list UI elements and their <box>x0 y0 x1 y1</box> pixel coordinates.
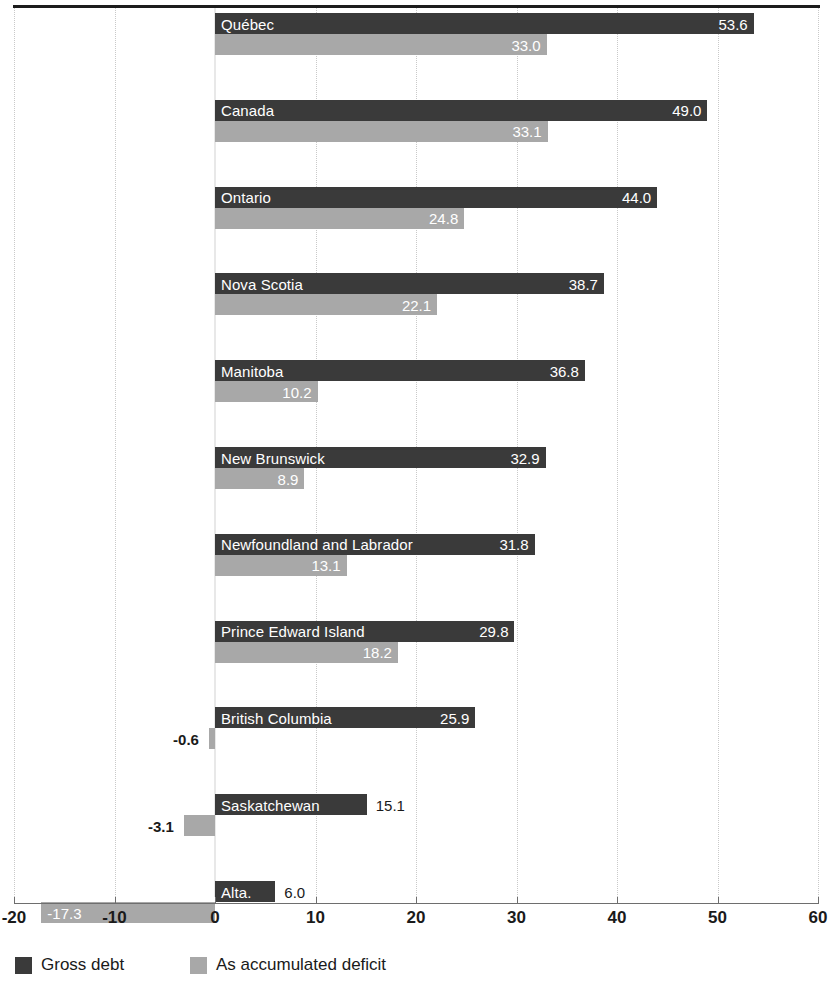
bar-value-gross-debt: 53.6 <box>718 15 747 32</box>
bar-category-label: Saskatchewan <box>221 796 320 813</box>
legend-swatch-accumulated-deficit <box>190 957 207 974</box>
bar-value-accumulated-deficit: 10.2 <box>282 383 311 400</box>
bar-value-gross-debt: 29.8 <box>479 623 508 640</box>
bar-accumulated-deficit[interactable]: -17.3 <box>41 902 215 923</box>
bar-gross-debt[interactable]: British Columbia25.9 <box>215 707 475 728</box>
bar-category-label: Québec <box>221 15 274 32</box>
bar-category-label: Ontario <box>221 189 271 206</box>
bar-category-label: New Brunswick <box>221 449 325 466</box>
bar-value-gross-debt: 32.9 <box>510 449 539 466</box>
bar-value-gross-debt: 49.0 <box>672 102 701 119</box>
bar-group: Canada49.033.1 <box>0 100 831 142</box>
legend-label-accumulated-deficit: As accumulated deficit <box>216 955 386 975</box>
tick-label-10: 10 <box>306 908 325 928</box>
legend-item-gross-debt: Gross debt <box>15 955 190 975</box>
bar-group: Nova Scotia38.722.1 <box>0 273 831 315</box>
bar-gross-debt[interactable]: Newfoundland and Labrador31.8 <box>215 534 535 555</box>
tick-label--10: -10 <box>102 908 127 928</box>
tick-mark-20 <box>416 897 417 904</box>
bar-value-gross-debt: 25.9 <box>440 709 469 726</box>
tick-label-40: 40 <box>608 908 627 928</box>
bar-accumulated-deficit[interactable] <box>184 815 215 836</box>
bar-value-accumulated-deficit: -0.6 <box>147 730 199 747</box>
bar-value-gross-debt: 31.8 <box>499 536 528 553</box>
bar-value-accumulated-deficit: 13.1 <box>311 557 340 574</box>
bar-group: Prince Edward Island29.818.2 <box>0 621 831 663</box>
bar-value-accumulated-deficit: -3.1 <box>122 817 174 834</box>
chart-root: Québec53.633.0Canada49.033.1Ontario44.02… <box>0 0 831 991</box>
bar-value-gross-debt: 6.0 <box>284 883 305 900</box>
bar-category-label: Newfoundland and Labrador <box>221 536 413 553</box>
bar-category-label: British Columbia <box>221 709 332 726</box>
bar-category-label: Alta. <box>221 883 252 900</box>
bar-value-gross-debt: 38.7 <box>569 275 598 292</box>
tick-label--20: -20 <box>2 908 27 928</box>
tick-mark-40 <box>617 897 618 904</box>
legend-item-accumulated-deficit: As accumulated deficit <box>190 955 386 975</box>
tick-mark-30 <box>517 897 518 904</box>
bar-value-accumulated-deficit: 24.8 <box>429 210 458 227</box>
bar-group: British Columbia25.9-0.6 <box>0 707 831 749</box>
legend-label-gross-debt: Gross debt <box>41 955 124 975</box>
bar-value-accumulated-deficit: 33.0 <box>511 36 540 53</box>
bar-accumulated-deficit[interactable]: 22.1 <box>215 294 437 315</box>
tick-mark--20 <box>14 897 15 904</box>
bar-accumulated-deficit[interactable] <box>209 728 215 749</box>
bar-group: Ontario44.024.8 <box>0 187 831 229</box>
tick-mark-50 <box>718 897 719 904</box>
plot-area: Québec53.633.0Canada49.033.1Ontario44.02… <box>0 8 831 897</box>
bar-accumulated-deficit[interactable]: 13.1 <box>215 555 347 576</box>
bar-gross-debt[interactable]: Saskatchewan <box>215 794 367 815</box>
bar-accumulated-deficit[interactable]: 8.9 <box>215 468 304 489</box>
tick-label-0: 0 <box>210 908 219 928</box>
bar-category-label: Nova Scotia <box>221 275 303 292</box>
bar-group: Saskatchewan15.1-3.1 <box>0 794 831 836</box>
tick-label-20: 20 <box>407 908 426 928</box>
bar-value-accumulated-deficit: 22.1 <box>402 296 431 313</box>
bar-group: Québec53.633.0 <box>0 13 831 55</box>
bar-category-label: Manitoba <box>221 362 284 379</box>
bar-gross-debt[interactable]: New Brunswick32.9 <box>215 447 546 468</box>
bar-gross-debt[interactable]: Canada49.0 <box>215 100 707 121</box>
bar-accumulated-deficit[interactable]: 33.0 <box>215 34 547 55</box>
tick-mark-0 <box>215 897 216 904</box>
bar-value-gross-debt: 15.1 <box>376 796 405 813</box>
tick-label-50: 50 <box>708 908 727 928</box>
tick-mark-10 <box>316 897 317 904</box>
bar-accumulated-deficit[interactable]: 33.1 <box>215 121 548 142</box>
tick-label-30: 30 <box>507 908 526 928</box>
bar-gross-debt[interactable]: Ontario44.0 <box>215 187 657 208</box>
bar-value-gross-debt: 36.8 <box>550 362 579 379</box>
bar-value-accumulated-deficit: 33.1 <box>512 123 541 140</box>
bar-gross-debt[interactable]: Prince Edward Island29.8 <box>215 621 514 642</box>
bar-gross-debt[interactable]: Alta. <box>215 881 275 902</box>
bar-accumulated-deficit[interactable]: 24.8 <box>215 208 464 229</box>
bar-group: New Brunswick32.98.9 <box>0 447 831 489</box>
bar-group: Newfoundland and Labrador31.813.1 <box>0 534 831 576</box>
bar-value-accumulated-deficit: -17.3 <box>47 904 82 921</box>
chart-legend: Gross debt As accumulated deficit <box>15 955 386 975</box>
bar-accumulated-deficit[interactable]: 10.2 <box>215 381 318 402</box>
bar-value-accumulated-deficit: 18.2 <box>363 644 392 661</box>
bar-category-label: Canada <box>221 102 274 119</box>
bar-accumulated-deficit[interactable]: 18.2 <box>215 642 398 663</box>
bar-category-label: Prince Edward Island <box>221 623 365 640</box>
bar-value-gross-debt: 44.0 <box>622 189 651 206</box>
tick-mark--10 <box>115 897 116 904</box>
tick-mark-60 <box>818 897 819 904</box>
bar-gross-debt[interactable]: Québec53.6 <box>215 13 754 34</box>
bar-gross-debt[interactable]: Manitoba36.8 <box>215 360 585 381</box>
bar-value-accumulated-deficit: 8.9 <box>278 470 299 487</box>
bar-group: Manitoba36.810.2 <box>0 360 831 402</box>
legend-swatch-gross-debt <box>15 957 32 974</box>
bar-gross-debt[interactable]: Nova Scotia38.7 <box>215 273 604 294</box>
tick-label-60: 60 <box>809 908 828 928</box>
